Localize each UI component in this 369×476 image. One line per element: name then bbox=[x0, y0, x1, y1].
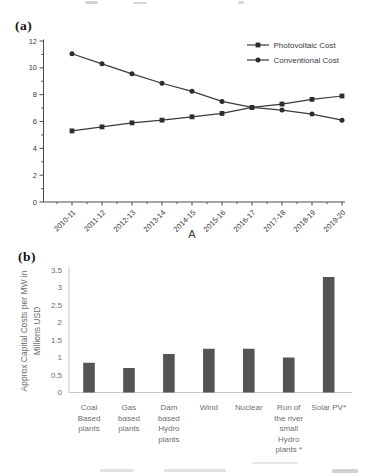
x-tick-label: 2012-13 bbox=[112, 208, 138, 234]
bar-chart-capital-costs-per-mw: 00.511.522.533.5CoalBasedplantsGasbasedp… bbox=[0, 250, 369, 476]
x-tick-label: 2017-18 bbox=[262, 208, 288, 234]
y-tick-label: 0.5 bbox=[51, 371, 63, 380]
square-marker bbox=[340, 94, 345, 99]
cropped-text-artifact bbox=[252, 462, 298, 464]
x-category-label: Nuclear bbox=[235, 403, 263, 412]
x-tick-label: 2019-20 bbox=[322, 208, 348, 234]
circle-marker bbox=[130, 71, 135, 76]
cropped-text-artifact bbox=[332, 469, 358, 473]
x-category-label: Wind bbox=[200, 403, 218, 412]
x-category-label: based bbox=[158, 414, 180, 423]
y-tick-label: 1.5 bbox=[51, 336, 63, 345]
bar bbox=[203, 349, 215, 393]
y-tick-label: 12 bbox=[29, 37, 37, 46]
y-tick-label: 2 bbox=[33, 171, 37, 180]
x-tick-label: 2018-19 bbox=[292, 208, 318, 234]
square-marker bbox=[100, 124, 105, 129]
bar bbox=[243, 349, 255, 393]
y-tick-label: 3.5 bbox=[51, 266, 63, 275]
x-category-label: Solar PV* bbox=[311, 403, 346, 412]
y-tick-label: 4 bbox=[33, 144, 37, 153]
line-chart-pv-vs-conventional-cost: 0246810122010-112011-122012-132013-14201… bbox=[0, 0, 369, 250]
square-marker bbox=[280, 102, 285, 107]
x-category-label: small bbox=[279, 424, 298, 433]
series-line-0 bbox=[72, 96, 342, 131]
square-marker bbox=[130, 120, 135, 125]
x-axis-title: A bbox=[188, 228, 196, 240]
x-category-label: plants bbox=[118, 424, 139, 433]
figure-canvas: (a) 0246810122010-112011-122012-132013-1… bbox=[0, 0, 369, 476]
bar bbox=[163, 354, 175, 393]
x-tick-label: 2015-16 bbox=[202, 208, 228, 234]
x-category-label: Gas bbox=[122, 403, 137, 412]
y-tick-label: 10 bbox=[29, 63, 37, 72]
y-tick-label: 8 bbox=[33, 90, 37, 99]
x-category-label: plants bbox=[78, 424, 99, 433]
circle-marker bbox=[100, 61, 105, 66]
square-marker bbox=[190, 114, 195, 119]
x-category-label: Run of bbox=[277, 403, 301, 412]
circle-marker bbox=[310, 112, 315, 117]
x-tick-label: 2010-11 bbox=[52, 208, 77, 233]
bar bbox=[83, 363, 95, 393]
y-axis-title: Approx Capital Costs per MW in bbox=[19, 270, 29, 391]
circle-marker bbox=[340, 118, 345, 123]
legend-circle-marker bbox=[256, 58, 261, 63]
circle-marker bbox=[160, 81, 165, 86]
square-marker bbox=[310, 97, 315, 102]
bar bbox=[323, 277, 335, 393]
x-tick-label: 2016-17 bbox=[232, 208, 258, 234]
y-tick-label: 0 bbox=[33, 198, 37, 207]
y-tick-label: 6 bbox=[33, 117, 37, 126]
x-category-label: plants bbox=[158, 435, 179, 444]
y-tick-label: 1 bbox=[58, 353, 63, 362]
x-category-label: Hydro bbox=[278, 435, 300, 444]
bar bbox=[283, 358, 295, 393]
x-category-label: based bbox=[118, 414, 140, 423]
y-tick-label: 0 bbox=[58, 388, 63, 397]
x-category-label: Based bbox=[78, 414, 101, 423]
bar bbox=[123, 368, 135, 393]
circle-marker bbox=[280, 108, 285, 113]
square-marker bbox=[160, 118, 165, 123]
square-marker bbox=[70, 128, 75, 133]
legend-label: Photovoltaic Cost bbox=[274, 41, 337, 50]
legend-label: Conventional Cost bbox=[274, 56, 340, 65]
square-marker bbox=[220, 111, 225, 116]
cropped-text-artifact bbox=[100, 469, 134, 472]
x-category-label: Coal bbox=[81, 403, 98, 412]
y-tick-label: 3 bbox=[58, 283, 63, 292]
circle-marker bbox=[220, 99, 225, 104]
circle-marker bbox=[250, 105, 255, 110]
circle-marker bbox=[190, 89, 195, 94]
x-category-label: Dam bbox=[160, 403, 177, 412]
x-tick-label: 2013-14 bbox=[142, 208, 168, 234]
x-category-label: the river bbox=[274, 414, 303, 423]
x-category-label: Hydro bbox=[158, 424, 180, 433]
x-category-label: plants * bbox=[275, 445, 302, 454]
x-tick-label: 2011-12 bbox=[82, 208, 107, 233]
y-tick-label: 2 bbox=[58, 318, 63, 327]
cropped-text-artifact bbox=[164, 469, 226, 472]
y-axis-title: Millions USD bbox=[32, 307, 42, 356]
legend-square-marker bbox=[256, 43, 261, 48]
y-tick-label: 2.5 bbox=[51, 301, 63, 310]
circle-marker bbox=[70, 51, 75, 56]
